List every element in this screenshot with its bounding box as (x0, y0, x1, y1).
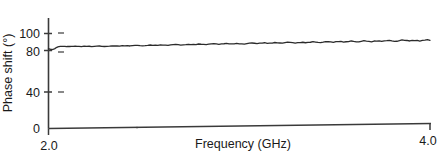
phase-shift-chart-figure: 100 80 40 0 2.0 4.0 Frequency (GHz) Phas… (0, 0, 444, 163)
y-tick-label-100: 100 (19, 27, 40, 41)
y-tick-label-0: 0 (33, 122, 40, 136)
x-tick-label-start: 2.0 (40, 139, 57, 153)
x-axis-spine (49, 124, 432, 129)
y-axis-title: Phase shift (°) (1, 34, 15, 113)
phase-shift-data-line (49, 40, 431, 50)
x-tick-label-end: 4.0 (419, 134, 436, 148)
y-tick-marks (44, 33, 64, 92)
y-tick-label-40: 40 (26, 86, 40, 100)
chart-canvas: 100 80 40 0 2.0 4.0 Frequency (GHz) Phas… (0, 0, 444, 163)
y-tick-label-80: 80 (26, 45, 40, 59)
x-axis-title: Frequency (GHz) (195, 137, 291, 151)
